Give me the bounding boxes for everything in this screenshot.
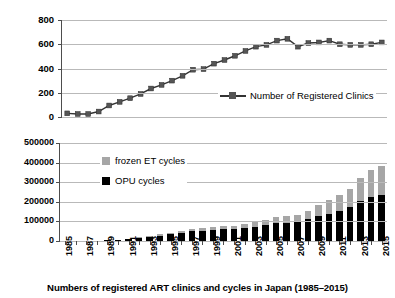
x-axis-label-slot bbox=[176, 246, 187, 286]
legend-item-opu: OPU cycles bbox=[100, 175, 187, 186]
y-axis-tick-label: 400000 bbox=[2, 158, 54, 167]
bar-slot bbox=[303, 143, 314, 241]
bar-slot bbox=[281, 143, 292, 241]
x-axis-label-slot bbox=[260, 246, 271, 286]
y-axis-tick-label: 200000 bbox=[2, 197, 54, 206]
bar-slot bbox=[376, 143, 387, 241]
x-axis-label-slot bbox=[71, 246, 82, 286]
y-axis-tick-label: 0 bbox=[2, 236, 54, 245]
bar-slot bbox=[260, 143, 271, 241]
y-axis-tick-label: 500000 bbox=[2, 138, 54, 147]
stacked-bar bbox=[347, 189, 354, 241]
line-chart-legend: Number of Registered Clinics bbox=[218, 90, 376, 101]
x-axis-label-slot bbox=[324, 246, 335, 286]
stacked-bar bbox=[368, 170, 375, 241]
bar-slot bbox=[355, 143, 366, 241]
x-axis-label-slot: 2001 bbox=[229, 246, 240, 286]
x-axis-label-slot: 2011 bbox=[334, 246, 345, 286]
legend-opu-label: OPU cycles bbox=[115, 175, 165, 186]
x-axis-label-slot: 2003 bbox=[250, 246, 261, 286]
x-axis-label-slot: 1991 bbox=[123, 246, 134, 286]
bar-segment-frozen-et bbox=[347, 189, 354, 208]
x-axis-label-slot: 2009 bbox=[313, 246, 324, 286]
x-axis-label-slot bbox=[113, 246, 124, 286]
x-axis-label-slot: 1987 bbox=[81, 246, 92, 286]
x-axis-label-slot: 1995 bbox=[165, 246, 176, 286]
bar-slot bbox=[250, 143, 261, 241]
bar-slot bbox=[208, 143, 219, 241]
figure-art-clinics-cycles: Number of Registered Clinics 80060040020… bbox=[0, 0, 395, 298]
x-axis-tick-label: 2015 bbox=[382, 236, 391, 256]
legend-frozen-label: frozen ET cycles bbox=[115, 155, 185, 166]
bar-slot bbox=[366, 143, 377, 241]
bar-slot bbox=[239, 143, 250, 241]
x-axis-label-slot: 2015 bbox=[376, 246, 387, 286]
x-axis-label-slot: 1985 bbox=[60, 246, 71, 286]
figure-caption: Numbers of registered ART clinics and cy… bbox=[0, 282, 395, 293]
x-axis-label-slot: 1993 bbox=[144, 246, 155, 286]
bar-chart-legend: frozen ET cycles OPU cycles bbox=[100, 155, 187, 195]
x-axis-label-slot: 2005 bbox=[271, 246, 282, 286]
line-chart-panel: Number of Registered Clinics 80060040020… bbox=[0, 12, 395, 124]
bar-slot bbox=[271, 143, 282, 241]
x-axis-label-slot bbox=[134, 246, 145, 286]
bar-slot bbox=[345, 143, 356, 241]
x-axis-label-slot bbox=[218, 246, 229, 286]
bar-slot bbox=[313, 143, 324, 241]
x-axis-label-slot: 2007 bbox=[292, 246, 303, 286]
bar-segment-frozen-et bbox=[305, 211, 312, 219]
x-axis-label-slot bbox=[92, 246, 103, 286]
y-axis-tick-label: 200 bbox=[8, 88, 54, 98]
y-axis-line bbox=[59, 143, 60, 241]
x-axis-label-slot bbox=[197, 246, 208, 286]
x-axis-label-slot: 1997 bbox=[187, 246, 198, 286]
y-axis-tick-label: 100000 bbox=[2, 216, 54, 225]
stacked-bar bbox=[378, 166, 385, 241]
gridline bbox=[62, 44, 387, 45]
y-axis-line bbox=[61, 20, 62, 117]
bar-segment-frozen-et bbox=[368, 170, 375, 197]
bar-slot bbox=[334, 143, 345, 241]
bar-segment-frozen-et bbox=[315, 205, 322, 216]
y-axis-tick-label: 300000 bbox=[2, 177, 54, 186]
bar-slot bbox=[71, 143, 82, 241]
x-axis: 1985198719891991199319951997199920012003… bbox=[60, 241, 387, 287]
bar-slot bbox=[60, 143, 71, 241]
bar-slot bbox=[187, 143, 198, 241]
legend-clinics-label: Number of Registered Clinics bbox=[250, 90, 374, 101]
line-chart-plot-area bbox=[62, 20, 387, 117]
x-axis-label-slot bbox=[345, 246, 356, 286]
bar-slot bbox=[229, 143, 240, 241]
x-axis-labels: 1985198719891991199319951997199920012003… bbox=[60, 246, 387, 286]
bar-segment-frozen-et bbox=[378, 166, 385, 195]
bar-slot bbox=[81, 143, 92, 241]
x-axis-label-slot bbox=[155, 246, 166, 286]
x-axis-label-slot: 1989 bbox=[102, 246, 113, 286]
x-axis-label-slot bbox=[239, 246, 250, 286]
bar-slot bbox=[292, 143, 303, 241]
gridline bbox=[60, 221, 387, 222]
legend-item-frozen: frozen ET cycles bbox=[100, 155, 187, 166]
legend-line-marker-icon bbox=[220, 91, 246, 100]
bar-slot bbox=[197, 143, 208, 241]
gridline bbox=[60, 202, 387, 203]
legend-opu-swatch-icon bbox=[102, 177, 110, 185]
y-axis-tick-mark bbox=[58, 117, 62, 118]
gridline bbox=[62, 20, 387, 21]
y-axis-tick-label: 600 bbox=[8, 39, 54, 49]
y-axis-tick-label: 0 bbox=[8, 112, 54, 122]
gridline bbox=[62, 69, 387, 70]
bar-chart-panel: frozen ET cycles OPU cycles 500000400000… bbox=[0, 137, 395, 247]
x-axis-label-slot bbox=[281, 246, 292, 286]
x-axis-label-slot: 1999 bbox=[208, 246, 219, 286]
bar-segment-opu bbox=[368, 197, 375, 241]
x-axis-label-slot bbox=[303, 246, 314, 286]
gridline bbox=[60, 143, 387, 144]
y-axis-tick-label: 800 bbox=[8, 15, 54, 25]
bar-slot bbox=[218, 143, 229, 241]
y-axis-tick-label: 400 bbox=[8, 64, 54, 74]
legend-frozen-swatch-icon bbox=[102, 157, 110, 165]
x-axis-label-slot: 2013 bbox=[355, 246, 366, 286]
stacked-bar bbox=[357, 178, 364, 241]
gridline bbox=[62, 117, 387, 118]
